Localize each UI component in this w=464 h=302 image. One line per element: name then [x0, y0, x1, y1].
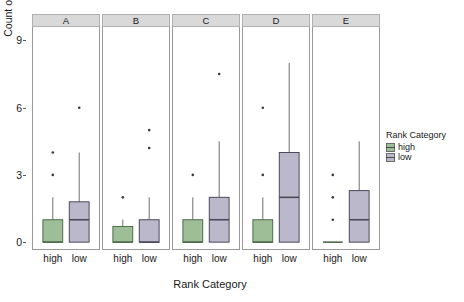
facet-panel-e: Ehighlow [312, 14, 380, 264]
outlier-point [52, 174, 55, 177]
boxplot-svg [313, 27, 379, 250]
facet-strip-label: D [242, 14, 310, 27]
facet-strip-label: C [172, 14, 240, 27]
y-tick-mark [23, 108, 26, 109]
box-rect [349, 191, 369, 243]
boxplot-svg [103, 27, 169, 250]
box-low [209, 73, 229, 242]
x-tick-label-high: high [43, 253, 62, 264]
legend: Rank Category highlow [386, 130, 446, 163]
boxplot-svg [33, 27, 99, 250]
panel-plot-area [102, 27, 170, 250]
outlier-point [122, 196, 125, 199]
box-rect [113, 226, 133, 242]
outlier-point [148, 129, 151, 132]
outlier-point [52, 151, 55, 154]
facet-panel-c: Chighlow [172, 14, 240, 264]
box-high [183, 174, 203, 243]
x-tick-label-high: high [183, 253, 202, 264]
panel-plot-area [172, 27, 240, 250]
panel-plot-area [32, 27, 100, 250]
x-tick-label-low: low [282, 253, 297, 264]
facet-panel-b: Bhighlow [102, 14, 170, 264]
box-rect [253, 220, 273, 242]
panel-plot-area [312, 27, 380, 250]
facet-strip-label: E [312, 14, 380, 27]
x-tick-label-high: high [113, 253, 132, 264]
box-low [69, 106, 89, 242]
outlier-point [218, 73, 221, 76]
box-high [113, 196, 133, 242]
outlier-point [262, 174, 265, 177]
boxplot-chart: Count of Traumas 0369 AhighlowBhighlowCh… [0, 0, 464, 302]
box-rect [183, 220, 203, 242]
facet-panel-a: Ahighlow [32, 14, 100, 264]
outlier-point [332, 218, 335, 221]
boxplot-svg [243, 27, 309, 250]
legend-key-swatch [386, 143, 395, 152]
y-tick-mark [23, 242, 26, 243]
y-tick-label: 0 [16, 236, 22, 248]
x-tick-label-low: low [212, 253, 227, 264]
y-axis-ticks: 0369 [0, 0, 28, 302]
legend-entry-label: low [398, 153, 412, 162]
legend-entry-label: high [398, 143, 415, 152]
y-tick-label: 9 [16, 34, 22, 46]
outlier-point [262, 106, 265, 109]
boxplot-svg [173, 27, 239, 250]
facet-panel-d: Dhighlow [242, 14, 310, 264]
outlier-point [192, 174, 195, 177]
box-rect [43, 220, 63, 242]
panel-plot-area [242, 27, 310, 250]
box-low [349, 141, 369, 242]
box-high [43, 151, 63, 242]
legend-entry-high[interactable]: high [386, 143, 446, 152]
box-high [253, 106, 273, 242]
legend-title: Rank Category [386, 130, 446, 140]
outlier-point [78, 106, 81, 109]
facet-strip-label: A [32, 14, 100, 27]
outlier-point [332, 196, 335, 199]
y-tick-mark [23, 40, 26, 41]
legend-entries: highlow [386, 143, 446, 162]
outlier-point [332, 174, 335, 177]
x-axis-label: Rank Category [30, 278, 390, 290]
box-high [323, 174, 343, 243]
x-tick-label-low: low [142, 253, 157, 264]
legend-entry-low[interactable]: low [386, 153, 446, 162]
x-tick-label-high: high [323, 253, 342, 264]
x-tick-label-low: low [352, 253, 367, 264]
box-rect [139, 220, 159, 242]
y-tick-label: 6 [16, 102, 22, 114]
x-tick-label-high: high [253, 253, 272, 264]
legend-key-swatch [386, 153, 395, 162]
y-tick-mark [23, 175, 26, 176]
x-tick-label-low: low [72, 253, 87, 264]
facet-strip-label: B [102, 14, 170, 27]
y-tick-label: 3 [16, 169, 22, 181]
box-rect [69, 202, 89, 242]
outlier-point [148, 147, 151, 150]
box-low [139, 129, 159, 242]
box-low [279, 63, 299, 242]
